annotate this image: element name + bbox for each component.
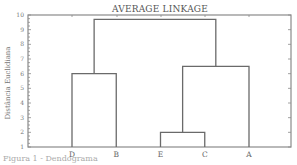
figure-caption: Figura 1 - Dendograma <box>3 154 98 163</box>
y-tick-label: 6 <box>20 70 24 77</box>
plot-frame <box>28 15 291 147</box>
branch-e-c <box>161 132 205 147</box>
branch-d-b-e-c-a <box>94 19 216 73</box>
y-tick-label: 4 <box>20 99 24 106</box>
branch-d-b <box>72 74 116 147</box>
leaf-label-b: B <box>113 150 119 159</box>
y-tick-label: 9 <box>20 26 24 33</box>
y-tick-label: 1 <box>20 143 24 150</box>
y-tick-label: 7 <box>20 55 24 62</box>
y-tick-label: 8 <box>20 40 24 47</box>
y-axis-label: Distância Euclidiana <box>4 46 12 119</box>
right-axis-ticks <box>72 15 291 147</box>
chart-title: AVERAGE LINKAGE <box>111 4 208 14</box>
leaf-label-e: E <box>158 150 163 159</box>
dendrogram-branches <box>72 19 249 147</box>
y-tick-label: 3 <box>20 114 24 121</box>
dendrogram-chart: AVERAGE LINKAGE 12345678910 Distância Eu… <box>0 0 297 165</box>
leaf-label-a: A <box>245 150 252 159</box>
y-tick-label: 5 <box>20 84 24 91</box>
leaf-label-c: C <box>202 150 208 159</box>
y-tick-label: 2 <box>20 128 24 135</box>
y-tick-label: 10 <box>16 11 24 18</box>
y-axis-ticks: 12345678910 <box>16 11 31 150</box>
branch-e-c-a <box>183 66 249 147</box>
